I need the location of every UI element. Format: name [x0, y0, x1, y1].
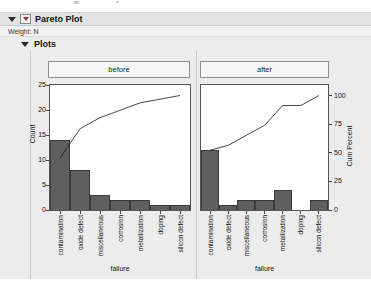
x-category-label: corrosion	[261, 215, 268, 275]
y2-tick-label: 25	[334, 177, 356, 185]
report-body: Pareto Plot Weight: N Plots before Count…	[0, 12, 371, 279]
x-category-label: oxide defect	[225, 215, 232, 275]
y-tick-mark	[46, 135, 49, 136]
clipped-text-artifact	[116, 1, 119, 3]
y2-tick-mark	[329, 124, 332, 125]
y2-tick-mark	[329, 181, 332, 182]
y-tick-label: 25	[24, 81, 46, 89]
x-tick-mark	[140, 211, 141, 214]
y2-tick-label: 50	[334, 149, 356, 157]
x-tick-mark	[160, 211, 161, 214]
red-triangle-menu-button[interactable]	[20, 14, 31, 24]
x-tick-mark	[300, 211, 301, 214]
pareto-panel-after: after Cum Percent failure 0255075100cont…	[196, 51, 371, 279]
x-category-label: metallization	[137, 215, 144, 275]
y2-tick-mark	[329, 95, 332, 96]
x-category-label: silicon defect	[315, 215, 322, 275]
y-tick-label: 0	[24, 206, 46, 214]
clipped-text-artifact	[74, 1, 79, 4]
x-tick-mark	[120, 211, 121, 214]
panel-title-box: before	[48, 61, 190, 78]
y-tick-label: 5	[24, 181, 46, 189]
y-tick-mark	[46, 210, 49, 211]
disclosure-triangle-icon[interactable]	[8, 17, 16, 22]
y2-tick-label: 0	[334, 206, 356, 214]
plots-body: before Count failure 0510152025contamina…	[0, 51, 371, 279]
panel-title: after	[257, 65, 272, 74]
y2-tick-mark	[329, 210, 332, 211]
outline-title: Pareto Plot	[35, 14, 83, 24]
x-tick-mark	[60, 211, 61, 214]
pareto-plot-outline-header: Pareto Plot	[0, 13, 371, 26]
y-tick-label: 15	[24, 131, 46, 139]
panel-title: before	[108, 65, 129, 74]
x-category-label: contamination	[57, 215, 64, 275]
x-tick-mark	[100, 211, 101, 214]
y-tick-mark	[46, 110, 49, 111]
x-tick-mark	[246, 211, 247, 214]
plots-outline-header: Plots	[0, 37, 371, 51]
x-tick-mark	[180, 211, 181, 214]
x-category-label: miscellaneous	[243, 215, 250, 275]
panel-title-box: after	[200, 61, 329, 78]
y2-tick-label: 100	[334, 92, 356, 100]
disclosure-triangle-icon[interactable]	[21, 42, 29, 47]
x-category-label: silicon defect	[177, 215, 184, 275]
y-tick-mark	[46, 160, 49, 161]
plot-area	[49, 84, 191, 211]
x-tick-mark	[318, 211, 319, 214]
x-tick-mark	[282, 211, 283, 214]
weight-row: Weight: N	[0, 26, 371, 37]
x-tick-mark	[264, 211, 265, 214]
x-category-label: contamination	[207, 215, 214, 275]
x-category-label: miscellaneous	[97, 215, 104, 275]
red-triangle-icon	[23, 17, 29, 21]
cumulative-percent-line	[50, 85, 190, 210]
y2-tick-label: 75	[334, 120, 356, 128]
weight-label: Weight: N	[8, 28, 39, 35]
y-tick-label: 10	[24, 156, 46, 164]
y2-tick-mark	[329, 152, 332, 153]
pareto-panel-before: before Count failure 0510152025contamina…	[24, 51, 196, 279]
jmp-report-window: Pareto Plot Weight: N Plots before Count…	[0, 0, 371, 287]
y-tick-label: 20	[24, 106, 46, 114]
x-category-label: metallization	[279, 215, 286, 275]
x-category-label: oxide defect	[77, 215, 84, 275]
plots-outline-title: Plots	[34, 39, 56, 49]
plot-area	[200, 84, 329, 211]
x-tick-mark	[228, 211, 229, 214]
cumulative-percent-line	[201, 85, 328, 210]
y-tick-mark	[46, 85, 49, 86]
x-tick-mark	[80, 211, 81, 214]
x-category-label: corrosion	[117, 215, 124, 275]
x-tick-mark	[210, 211, 211, 214]
x-category-label: doping	[157, 215, 164, 275]
y-tick-mark	[46, 185, 49, 186]
x-category-label: doping	[297, 215, 304, 275]
